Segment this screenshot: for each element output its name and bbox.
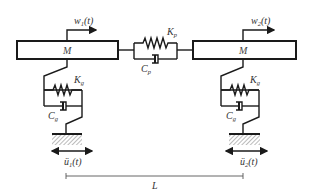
span-dimension: L [66, 173, 243, 191]
w2-label: w2(t) [251, 15, 271, 27]
displacement-arrow-w1: w1(t) [67, 15, 96, 41]
displacement-arrow-w2: w2(t) [243, 15, 274, 41]
spring-kg-1-icon [44, 85, 82, 95]
mass-1: M [17, 41, 118, 59]
mass-2: M [193, 41, 296, 59]
cg-1-label: Cg [48, 110, 59, 122]
kg-2-label: Kg [249, 74, 261, 86]
w1-label: w1(t) [74, 15, 94, 27]
spring-kp-icon [134, 38, 177, 48]
cp-label: Cp [141, 63, 152, 75]
span-label: L [151, 180, 158, 191]
support-2: Kg Cg ü2(t) [221, 59, 267, 168]
ground-hatch-1 [52, 135, 82, 145]
u2-label: ü2(t) [240, 156, 258, 168]
kg-1-label: Kg [73, 74, 85, 86]
ground-hatch-2 [229, 135, 260, 145]
damper-cg-2-icon [221, 102, 259, 110]
cg-2-label: Cg [226, 110, 237, 122]
u1-label: ü1(t) [64, 156, 82, 168]
damper-cp-icon [134, 55, 177, 63]
damper-cg-1-icon [44, 102, 82, 110]
spring-kg-2-icon [221, 85, 259, 95]
kp-label: Kp [166, 26, 178, 38]
mass-1-label: M [62, 45, 72, 56]
mass-2-label: M [238, 45, 248, 56]
coupling-element: Kp Cp [118, 26, 193, 75]
support-1: Kg Cg ü1(t) [44, 59, 92, 168]
diagram-canvas: M w1(t) M w2(t) Kp Cp Kg [0, 0, 313, 193]
